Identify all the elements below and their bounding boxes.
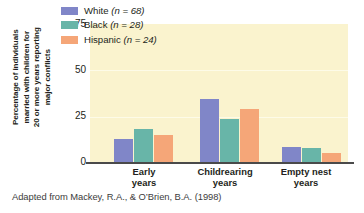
bar-childrearing-hispanic [240,109,259,163]
x-axis-category-labels: Early years Childrearing years Empty nes… [90,166,348,192]
legend-label-black: Black (n = 28) [84,20,144,30]
bar-early-hispanic [154,135,173,163]
y-axis-title-line-3: 20 or more years reporting [32,0,43,157]
y-axis-title-line-1: Percentage of individuals [11,0,22,157]
x-label-empty-nest-years: Empty nest years [258,166,354,189]
y-tick-label-50: 50 [64,65,86,75]
bar-early-black [134,129,153,163]
y-tick-label-25: 25 [64,111,86,121]
x-axis-line [86,162,354,164]
bar-chart-figure: Percentage of individuals married with c… [0,0,364,213]
y-axis-title-line-4: major conflicts [43,0,54,157]
bar-early-white [114,139,133,163]
bar-empty-nest-white [282,147,301,163]
y-tick-label-0: 0 [64,157,86,167]
y-axis-title-line-2: married with children for [21,0,32,157]
bar-group-early-years [114,129,173,163]
legend-swatch-white-icon [61,7,78,15]
legend-label-hispanic: Hispanic (n = 24) [84,35,157,45]
gridline-50 [90,70,348,71]
bar-childrearing-white [200,99,219,163]
bar-group-empty-nest-years [282,147,341,163]
legend-item-hispanic: Hispanic (n = 24) [61,34,157,45]
bar-group-childrearing-years [200,99,259,163]
y-axis-title: Percentage of individuals married with c… [11,0,53,157]
chart-legend: White (n = 68) Black (n = 28) Hispanic (… [61,5,157,45]
legend-item-black: Black (n = 28) [61,20,157,31]
source-caption: Adapted from Mackey, R.A., & O’Brien, B.… [12,191,221,202]
legend-swatch-hispanic-icon [61,36,78,44]
bar-empty-nest-black [302,148,321,163]
legend-label-white: White (n = 68) [84,6,145,16]
legend-swatch-black-icon [61,21,78,29]
legend-item-white: White (n = 68) [61,5,157,16]
bar-childrearing-black [220,119,239,163]
